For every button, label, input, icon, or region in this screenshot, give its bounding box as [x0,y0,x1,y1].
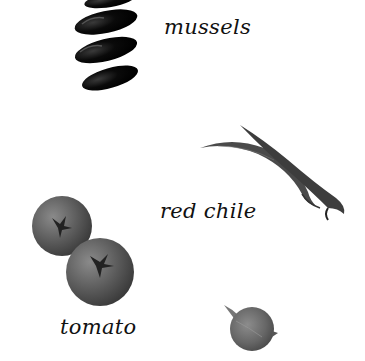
shallot-image [222,303,282,355]
red-chile-label: red chile [160,199,256,223]
mussels-label: mussels [164,15,251,39]
tomato-label: tomato [60,315,136,339]
shallot-icon [222,303,282,355]
tomato-image [30,196,140,310]
tomato-icon [30,196,140,310]
mussels-image [68,0,148,94]
mussels-icon [68,0,148,94]
